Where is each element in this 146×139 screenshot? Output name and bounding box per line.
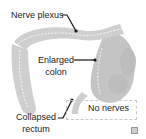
copyright-logo-icon [131,127,138,134]
colon-diagram: Nerve plexus Enlarged colon No nerves Co… [0,0,146,139]
enlarged-colon-label-line1: Enlarged [38,55,74,65]
ascending-colon-shape [11,44,36,115]
no-nerves-label: No nerves [88,103,129,113]
collapsed-rectum-label: Collapsed rectum [16,112,56,134]
enlarged-colon-label: Enlarged colon [38,55,74,77]
enlarged-colon-label-line2: colon [38,67,74,77]
collapsed-rectum-label-line1: Collapsed [16,112,56,122]
collapsed-rectum-label-line2: rectum [16,124,56,134]
nerve-plexus-label: Nerve plexus [11,10,64,20]
